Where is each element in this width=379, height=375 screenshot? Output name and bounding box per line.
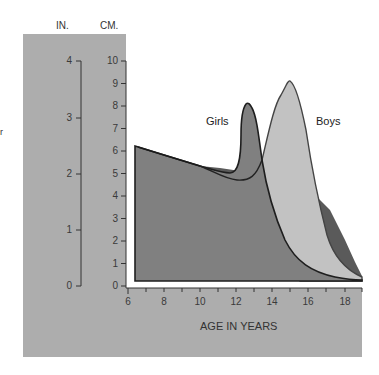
x-tick-6: 6 (118, 296, 138, 307)
x-tick-12: 12 (226, 296, 246, 307)
boys-label: Boys (316, 115, 340, 127)
x-tick-16: 16 (298, 296, 318, 307)
cm-tick-3: 3 (100, 213, 118, 224)
cm-tick-2: 2 (100, 235, 118, 246)
cm-tick-7: 7 (100, 123, 118, 134)
inches-ticks (76, 61, 81, 286)
cm-tick-5: 5 (100, 168, 118, 179)
x-tick-10: 10 (190, 296, 210, 307)
cm-tick-4: 4 (100, 190, 118, 201)
in-tick-2: 2 (54, 168, 72, 179)
cm-tick-9: 9 (100, 78, 118, 89)
in-tick-1: 1 (54, 224, 72, 235)
cm-tick-0: 0 (100, 280, 118, 291)
x-tick-14: 14 (262, 296, 282, 307)
cm-tick-8: 8 (100, 100, 118, 111)
cm-ticks (121, 61, 126, 286)
x-ticks (128, 288, 362, 294)
in-tick-0: 0 (54, 280, 72, 291)
cm-tick-6: 6 (100, 145, 118, 156)
x-axis-title: AGE IN YEARS (200, 320, 277, 332)
cm-tick-10: 10 (100, 55, 118, 66)
in-tick-4: 4 (54, 55, 72, 66)
in-tick-3: 3 (54, 112, 72, 123)
x-tick-8: 8 (154, 296, 174, 307)
x-tick-18: 18 (335, 296, 355, 307)
cm-tick-1: 1 (100, 258, 118, 269)
girls-label: Girls (206, 115, 229, 127)
